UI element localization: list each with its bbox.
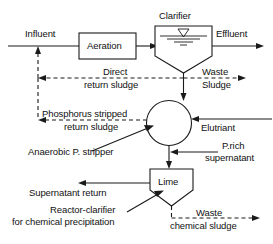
clarifier-to-stripper-stream: [181, 78, 187, 101]
influent-label: Influent: [25, 28, 55, 39]
stripper-to-lime-stream: [166, 146, 172, 170]
waste-chemical-sludge-label-line1: Waste: [196, 207, 222, 218]
anaerobic-p-stripper-unit: [147, 101, 192, 146]
elutriant-label: Elutriant: [201, 122, 235, 133]
direct-return-sludge-label-line2: return sludge: [84, 79, 138, 90]
supernatant-return-stream: [78, 180, 150, 186]
waste-sludge-label-line1: Waste: [202, 66, 228, 77]
direct-return-sludge-label-line1: Direct: [103, 66, 127, 77]
clarifier-label: Clarifier: [159, 10, 191, 21]
aeration-label: Aeration: [87, 40, 122, 51]
reactor-clarifier-label-line1: Reactor-clarifier: [50, 204, 115, 215]
lime-reactor-clarifier-unit: [150, 169, 193, 206]
phosphorus-stripped-label-line1: Phosphorus stripped: [42, 108, 127, 119]
p-rich-supernatant-label-line1: P.rich: [222, 140, 244, 151]
p-rich-supernatant-label-line2: supernatant: [205, 152, 254, 163]
phosphorus-stripped-label-line2: return sludge: [64, 121, 118, 132]
supernatant-return-label: Supernatant return: [29, 187, 106, 198]
lime-label: Lime: [158, 176, 178, 187]
anaerobic-p-stripper-label: Anaerobic P. stripper: [28, 146, 113, 157]
effluent-stream: [212, 43, 264, 49]
waste-chemical-sludge-label-line2: chemical sludge: [170, 220, 237, 231]
reactor-clarifier-label-line2: for chemical precipitation: [12, 216, 114, 227]
effluent-label: Effluent: [216, 28, 247, 39]
waste-sludge-label-line2: Sludge: [202, 79, 231, 90]
process-flow-diagram: Influent Aeration Clarifier Effluent Dir…: [0, 0, 273, 244]
reactor-clarifier-leader: [127, 191, 164, 213]
